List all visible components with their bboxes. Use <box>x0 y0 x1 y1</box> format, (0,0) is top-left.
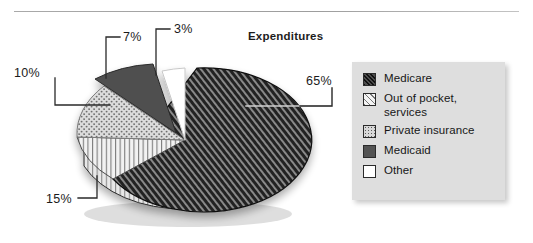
private-insurance-swatch-icon <box>363 125 376 138</box>
chart-title: Expenditures <box>248 30 323 42</box>
legend-label-medicare: Medicare <box>384 72 432 86</box>
legend-item-out-of-pocket[interactable]: Out of pocket, services <box>363 92 499 119</box>
medicaid-swatch-icon <box>363 145 376 158</box>
callout-label-7: 7% <box>123 30 142 44</box>
leader-3 <box>156 29 170 75</box>
other-swatch-icon <box>363 165 376 178</box>
callout-label-10: 10% <box>14 66 40 80</box>
legend-item-medicare[interactable]: Medicare <box>363 72 499 87</box>
legend-item-other[interactable]: Other <box>363 164 499 179</box>
chart-legend: Medicare Out of pocket, services Private… <box>352 62 505 200</box>
callout-label-3: 3% <box>174 22 193 36</box>
legend-item-medicaid[interactable]: Medicaid <box>363 144 499 159</box>
callout-label-15: 15% <box>46 192 72 206</box>
legend-label-other: Other <box>384 164 413 178</box>
chart-canvas: Expenditures 3% 7% 10% 15% 65% Medicare … <box>0 0 533 243</box>
legend-label-private-insurance: Private insurance <box>384 124 475 138</box>
legend-label-medicaid: Medicaid <box>384 144 431 158</box>
leader-65 <box>300 88 332 106</box>
legend-label-out-of-pocket-line2: services <box>384 106 457 120</box>
pie-3d-body <box>77 64 312 212</box>
callout-label-65: 65% <box>306 74 332 88</box>
legend-list: Medicare Out of pocket, services Private… <box>363 72 499 184</box>
legend-item-private-insurance[interactable]: Private insurance <box>363 124 499 139</box>
legend-label-out-of-pocket: Out of pocket, services <box>384 92 457 119</box>
legend-label-out-of-pocket-line1: Out of pocket, <box>384 92 457 104</box>
medicare-swatch-icon <box>363 73 376 86</box>
out-of-pocket-swatch-icon <box>363 93 376 106</box>
leader-15 <box>78 176 97 198</box>
